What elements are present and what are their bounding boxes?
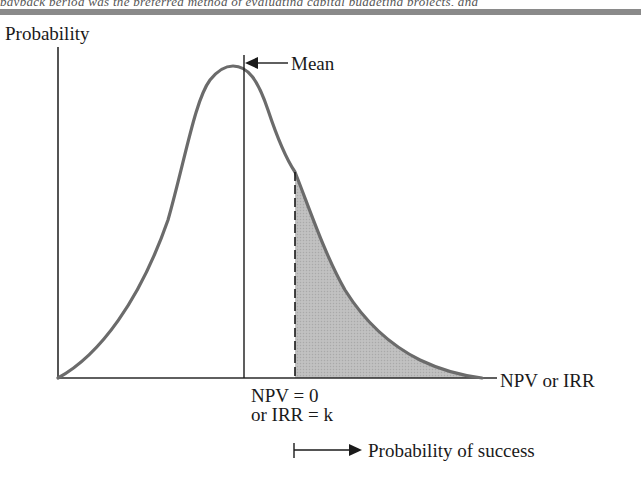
- mean-arrow-head: [245, 57, 258, 69]
- distribution-curve: [58, 66, 482, 378]
- success-region-shading: [295, 172, 482, 378]
- x-axis-label: NPV or IRR: [500, 371, 595, 390]
- breakeven-label-irr: or IRR = k: [251, 405, 333, 424]
- success-arrow-head: [349, 444, 362, 456]
- mean-label: Mean: [291, 54, 334, 73]
- breakeven-label-npv: NPV = 0: [251, 386, 318, 405]
- y-axis-label: Probability: [5, 24, 89, 43]
- probability-of-success-label: Probability of success: [368, 441, 535, 460]
